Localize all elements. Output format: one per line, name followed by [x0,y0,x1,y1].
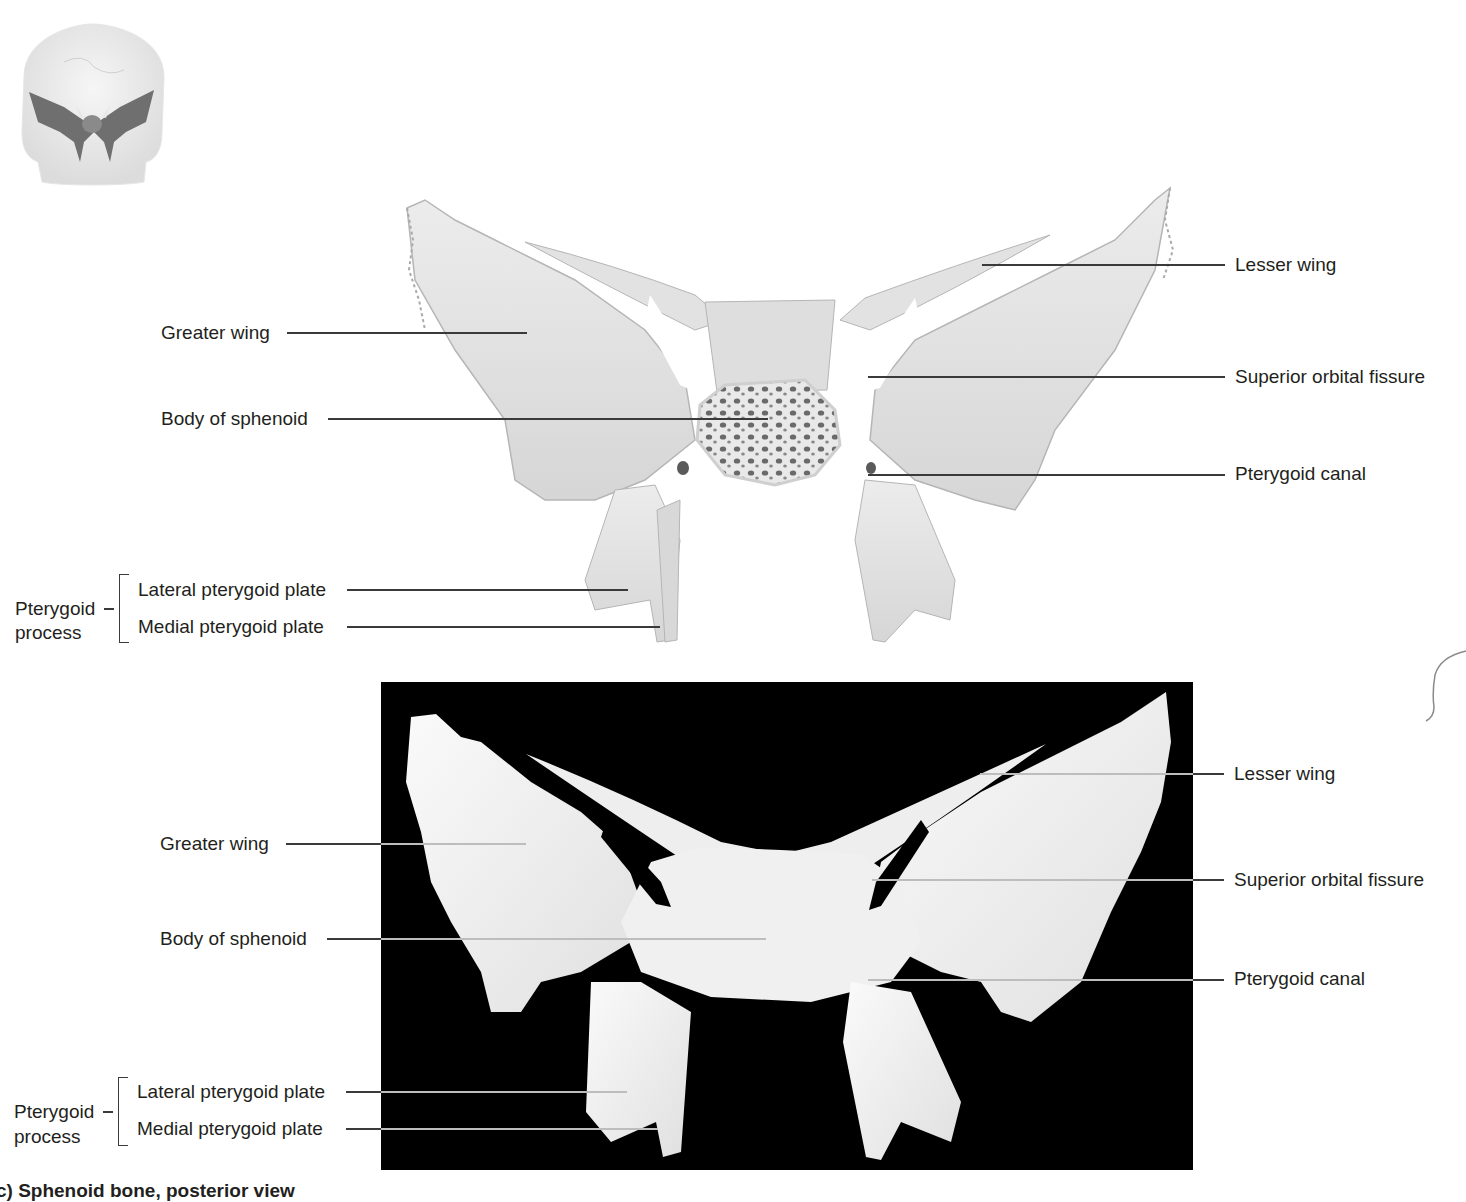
top-label-lateral-pterygoid-plate: Lateral pterygoid plate [138,579,326,601]
top-label-pterygoid-canal: Pterygoid canal [1235,463,1366,485]
bottom-label-body-of-sphenoid: Body of sphenoid [160,928,307,950]
top-leader-superior-orbital-fissure [868,376,1225,378]
bottom-leader-body-of-sphenoid-inner [381,938,766,940]
sphenoid-photograph [381,682,1193,1170]
bottom-leader-lesser-wing-inner [980,773,1193,775]
top-label-greater-wing: Greater wing [161,322,270,344]
sphenoid-drawing-icon [395,180,1195,660]
bottom-label-superior-orbital-fissure: Superior orbital fissure [1234,869,1424,891]
figure-caption: c) Sphenoid bone, posterior view [0,1180,295,1202]
sphenoid-photo-icon [381,682,1193,1170]
bottom-leader-greater-wing [286,843,381,845]
adjacent-figure-curve [1420,645,1466,725]
bottom-leader-lateral-pterygoid-plate-inner [381,1091,627,1093]
bottom-label-pterygoid-process-2: process [14,1126,81,1148]
top-leader-medial-pterygoid-plate [347,626,660,628]
bottom-leader-body-of-sphenoid [327,938,381,940]
bottom-label-medial-pterygoid-plate: Medial pterygoid plate [137,1118,323,1140]
bottom-leader-greater-wing-inner [381,843,526,845]
bottom-leader-lateral-pterygoid-plate [346,1091,381,1093]
skull-icon [14,22,169,187]
bottom-leader-pterygoid-canal [1193,979,1224,981]
top-leader-pterygoid-canal [868,474,1225,476]
bottom-leader-superior-orbital-fissure [1193,879,1224,881]
top-label-pterygoid-process-2: process [15,622,82,644]
bottom-label-greater-wing: Greater wing [160,833,269,855]
bottom-leader-pterygoid-canal-inner [868,979,1193,981]
top-leader-lesser-wing [982,264,1225,266]
bottom-label-lateral-pterygoid-plate: Lateral pterygoid plate [137,1081,325,1103]
bottom-leader-medial-pterygoid-plate-inner [381,1128,658,1130]
bottom-leader-superior-orbital-fissure-inner [872,879,1193,881]
top-bracket-tick [104,608,114,610]
top-leader-greater-wing [287,332,527,334]
bottom-bracket-tick [103,1111,113,1113]
bottom-label-pterygoid-process-1: Pterygoid [14,1101,94,1123]
sphenoid-illustration [395,180,1195,660]
top-leader-body-of-sphenoid [328,418,768,420]
top-label-medial-pterygoid-plate: Medial pterygoid plate [138,616,324,638]
skull-orientation-thumbnail [14,22,169,187]
bottom-label-lesser-wing: Lesser wing [1234,763,1335,785]
top-pterygoid-bracket [119,574,129,643]
bottom-leader-lesser-wing [1193,773,1224,775]
bottom-label-pterygoid-canal: Pterygoid canal [1234,968,1365,990]
top-label-body-of-sphenoid: Body of sphenoid [161,408,308,430]
top-label-lesser-wing: Lesser wing [1235,254,1336,276]
bottom-pterygoid-bracket [118,1077,128,1146]
top-label-pterygoid-process-1: Pterygoid [15,598,95,620]
top-leader-lateral-pterygoid-plate [347,589,628,591]
bottom-leader-medial-pterygoid-plate [346,1128,381,1130]
top-label-superior-orbital-fissure: Superior orbital fissure [1235,366,1425,388]
